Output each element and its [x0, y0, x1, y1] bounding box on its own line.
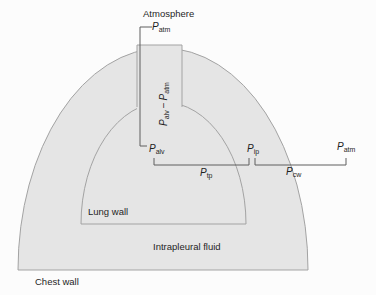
alv-subscript-rotated: alv [163, 110, 170, 119]
p-atm-right-subscript: atm [344, 146, 356, 153]
p-alv-symbol-rotated: P [158, 119, 169, 126]
p-cw-subscript: cw [293, 171, 302, 178]
p-atm-top-symbol: P [152, 21, 159, 32]
p-atm-symbol-rotated: P [158, 94, 169, 101]
p-atm-top-label: Patm [152, 21, 170, 33]
p-tp-subscript: tp [207, 172, 213, 179]
p-alv-symbol: P [149, 143, 156, 154]
p-ip-subscript: ip [254, 148, 259, 155]
p-atm-right-label: Patm [337, 141, 355, 153]
lung-pressure-diagram: Atmosphere Patm Palv−Patm Palv Ptp Pip P… [0, 0, 376, 295]
p-atm-top-subscript: atm [159, 26, 171, 33]
minus-sign: − [158, 100, 169, 110]
p-ip-symbol: P [247, 143, 254, 154]
p-cw-symbol: P [286, 166, 293, 177]
intrapleural-fluid-label: Intrapleural fluid [153, 241, 221, 252]
chest-wall-label: Chest wall [35, 276, 79, 287]
p-atm-right-symbol: P [337, 141, 344, 152]
p-ip-label: Pip [247, 143, 259, 155]
lung-wall-label: Lung wall [88, 206, 128, 217]
p-cw-label: Pcw [286, 166, 301, 178]
p-tp-symbol: P [200, 167, 207, 178]
p-alv-minus-p-atm-label: Palv−Patm [158, 82, 170, 126]
p-alv-label: Palv [149, 143, 165, 155]
atmosphere-label: Atmosphere [143, 8, 194, 19]
atm-subscript-rotated: atm [163, 82, 170, 94]
p-tp-label: Ptp [200, 167, 213, 179]
p-alv-subscript: alv [156, 148, 165, 155]
